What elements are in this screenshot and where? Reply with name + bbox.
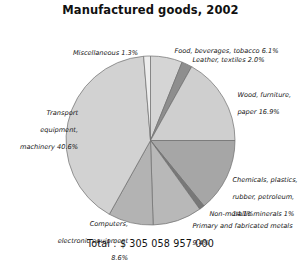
annotation-transport-equipment-machinery: Transport equipment, machinery 40.6% (2, 100, 78, 160)
annotation-wood-furniture-paper-line2: paper 16.9% (237, 108, 279, 116)
annotation-chemicals-line1: Chemicals, plastics, (232, 176, 297, 184)
annotation-transport-line1: Transport (47, 109, 78, 117)
annotation-transport-line2: equipment, (40, 126, 78, 134)
annotation-primary-fabricated-metals: Primary and fabricated metals 9.4% (184, 213, 301, 256)
total-label: Total : $ 305 058 957 000 (0, 238, 301, 249)
annotation-computers-line3: 8.6% (111, 254, 128, 262)
annotation-wood-furniture-paper-line1: Wood, furniture, (237, 91, 291, 99)
annotation-leather-textiles-text: Leather, textiles 2.0% (192, 56, 264, 64)
annotation-primary-metals-line1: Primary and fabricated metals (192, 222, 292, 230)
annotation-wood-furniture-paper: Wood, furniture, paper 16.9% (229, 82, 301, 125)
annotation-leather-textiles: Leather, textiles 2.0% (184, 47, 300, 73)
annotation-miscellaneous-text: Miscellaneous 1.3% (73, 49, 138, 57)
annotation-transport-line3: machinery 40.6% (20, 143, 78, 151)
annotation-miscellaneous: Miscellaneous 1.3% (46, 40, 138, 66)
annotation-computers-line1: Computers, (90, 220, 128, 228)
annotation-chemicals-line2: rubber, petroleum, (232, 193, 294, 201)
pie-slices-group (66, 56, 235, 225)
